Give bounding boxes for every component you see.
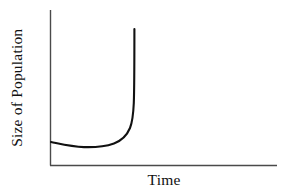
- population-growth-curve: [51, 29, 134, 147]
- y-axis-label-text: Size of Population: [9, 28, 25, 146]
- chart-plot-area: [0, 0, 284, 195]
- chart-figure: Size of Population Time: [0, 0, 284, 195]
- y-axis-label: Size of Population: [0, 0, 34, 175]
- x-axis-label-text: Time: [148, 171, 181, 188]
- x-axis-label: Time: [50, 172, 278, 188]
